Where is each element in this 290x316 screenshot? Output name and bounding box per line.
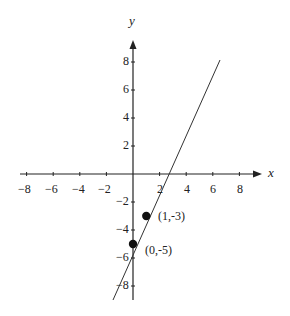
point-label: (0,-5) bbox=[145, 243, 172, 257]
y-tick-labels: 8 6 4 2 −2 −4 −6 −8 bbox=[116, 54, 129, 292]
x-axis-arrow-icon bbox=[253, 171, 262, 178]
x-tick: 6 bbox=[210, 182, 216, 196]
x-tick-labels: −8 −6 −4 −2 2 4 6 8 bbox=[18, 182, 243, 196]
x-tick: −6 bbox=[45, 182, 58, 196]
point-label: (1,-3) bbox=[158, 209, 185, 223]
y-tick: −6 bbox=[116, 250, 129, 264]
y-tick: 4 bbox=[123, 110, 129, 124]
y-tick: −2 bbox=[116, 194, 129, 208]
y-tick: 6 bbox=[123, 82, 129, 96]
point-1-neg3 bbox=[142, 212, 150, 220]
y-tick: 2 bbox=[123, 138, 129, 152]
y-axis-arrow-icon bbox=[130, 40, 137, 49]
x-tick: 4 bbox=[184, 182, 190, 196]
x-tick: 8 bbox=[237, 182, 243, 196]
function-line bbox=[113, 60, 220, 300]
x-tick: −2 bbox=[98, 182, 111, 196]
y-tick: −4 bbox=[116, 222, 129, 236]
y-tick: 8 bbox=[123, 54, 129, 68]
x-tick: −8 bbox=[18, 182, 31, 196]
x-axis-label: x bbox=[267, 165, 274, 180]
point-0-neg5 bbox=[129, 240, 137, 248]
y-axis-label: y bbox=[127, 13, 135, 28]
x-tick: −4 bbox=[72, 182, 85, 196]
coordinate-plane: x y −8 −6 −4 −2 2 4 6 8 8 6 4 2 −2 −4 −6… bbox=[0, 0, 290, 316]
